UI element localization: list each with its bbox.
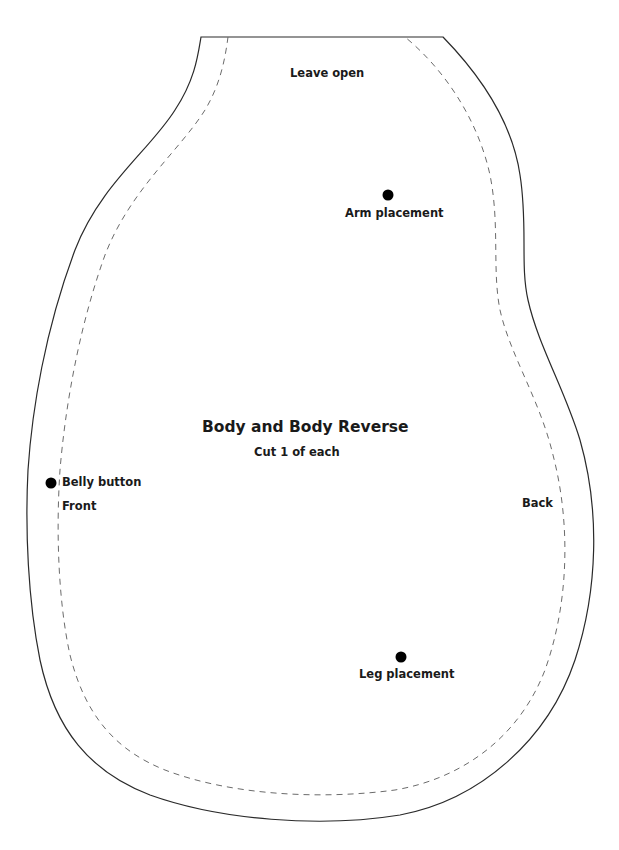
arm-placement-dot	[383, 190, 394, 201]
back-label: Back	[522, 496, 553, 510]
leg-placement-dot	[396, 652, 407, 663]
belly-button-label: Belly button	[62, 475, 141, 489]
stitch-line	[58, 37, 565, 795]
arm-placement-label: Arm placement	[345, 206, 444, 220]
leg-placement-label: Leg placement	[359, 667, 454, 681]
belly-button-dot	[46, 478, 57, 489]
front-label: Front	[62, 499, 96, 513]
leave-open-label: Leave open	[290, 66, 364, 80]
pattern-subtitle: Cut 1 of each	[254, 445, 340, 459]
pattern-title: Body and Body Reverse	[202, 418, 409, 436]
